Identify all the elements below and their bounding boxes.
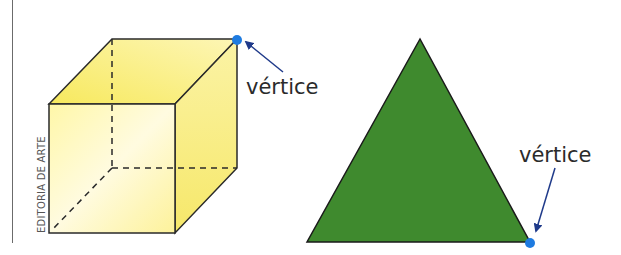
triangle-figure xyxy=(307,39,555,248)
triangle-vertex-label: vértice xyxy=(519,143,592,167)
cube-vertex-arrow xyxy=(246,42,283,72)
triangle-shape xyxy=(307,39,530,242)
cube-figure xyxy=(49,35,283,233)
cube-vertex-marker xyxy=(232,35,242,45)
cube-vertex-label: vértice xyxy=(246,75,319,99)
triangle-vertex-arrow xyxy=(536,168,555,231)
triangle-vertex-marker xyxy=(525,238,535,248)
diagram-canvas xyxy=(0,0,621,255)
